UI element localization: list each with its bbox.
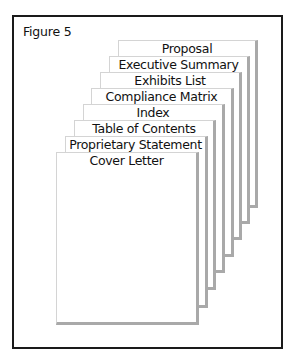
page-label: Compliance Matrix <box>92 89 231 105</box>
page-label: Proposal <box>119 41 255 57</box>
page-label: Table of Contents <box>75 121 213 137</box>
page-label: Exhibits List <box>101 73 239 89</box>
page-label: Executive Summary <box>110 57 247 73</box>
figure-title: Figure 5 <box>23 24 72 39</box>
page-label: Proprietary Statement <box>66 137 205 153</box>
stacked-page: Cover Letter <box>56 152 199 325</box>
page-label: Index <box>84 105 222 121</box>
page-label: Cover Letter <box>57 153 196 169</box>
